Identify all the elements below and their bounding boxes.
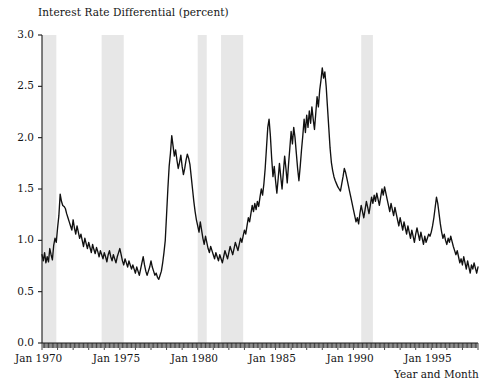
x-tick-label: Jan 1985 — [249, 352, 296, 364]
recession-band — [42, 35, 56, 343]
x-tick-label: Jan 1980 — [171, 352, 218, 364]
recession-bands — [42, 35, 373, 343]
y-tick-label: 3.0 — [4, 28, 34, 40]
x-tick-label: Jan 1990 — [326, 352, 373, 364]
recession-band — [221, 35, 243, 343]
y-tick-label: 1.5 — [4, 182, 34, 194]
recession-band — [198, 35, 207, 343]
plot-area — [0, 0, 496, 391]
x-tick-label: Jan 1995 — [404, 352, 451, 364]
x-axis-title: Year and Month — [394, 368, 479, 380]
x-tick-label: Jan 1975 — [93, 352, 140, 364]
y-tick-label: 2.0 — [4, 131, 34, 143]
x-tick-label: Jan 1970 — [15, 352, 62, 364]
y-tick-label: 2.5 — [4, 79, 34, 91]
chart-figure: Interest Rate Differential (percent) 0.0… — [0, 0, 496, 391]
recession-band — [102, 35, 124, 343]
recession-band — [361, 35, 373, 343]
y-tick-label: 0.0 — [4, 336, 34, 348]
y-tick-label: 0.5 — [4, 285, 34, 297]
y-tick-label: 1.0 — [4, 233, 34, 245]
